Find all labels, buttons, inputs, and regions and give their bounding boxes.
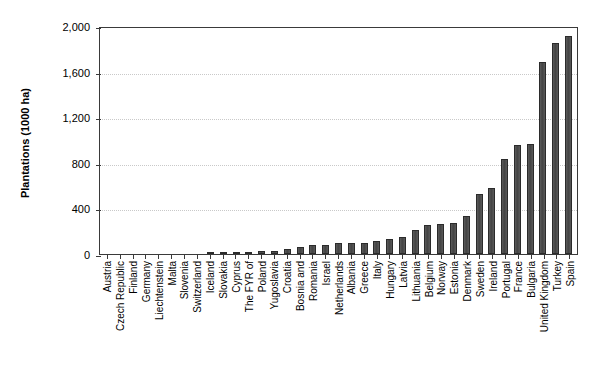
bar[interactable] [271,251,278,254]
bar-slot [498,28,511,254]
bar-slot [422,28,435,254]
bar[interactable] [437,224,444,254]
bar[interactable] [565,36,572,254]
x-axis-tick-slot [307,255,320,260]
bar[interactable] [348,243,355,254]
x-axis-tick-slot [178,255,191,260]
bar-slot [396,28,409,254]
bar[interactable] [501,159,508,254]
x-axis-tick-mark [351,255,352,259]
bar[interactable] [539,62,546,254]
x-axis-tick-mark [454,255,455,259]
bar-slot [204,28,217,254]
x-axis-tick-label: Albania [346,261,357,294]
x-axis-tick-slot [294,255,307,260]
bar[interactable] [399,237,406,254]
x-axis-tick-label: Poland [256,261,267,292]
bar-slot [281,28,294,254]
bar[interactable] [450,223,457,254]
x-axis-tick-mark [274,255,275,259]
bar-slot [383,28,396,254]
bar[interactable] [424,225,431,254]
x-axis-label-slot: Sweden [473,261,486,373]
x-axis-tick-slot [165,255,178,260]
x-axis-label-slot: Cyprus [229,261,242,373]
x-axis-label-slot: Austria [101,261,114,373]
y-axis-tick-label: 800 [36,158,90,169]
bar[interactable] [373,241,380,254]
x-axis-tick-label: Denmark [462,261,473,302]
x-axis-tick-marks [99,255,578,260]
bar[interactable] [207,252,214,254]
x-axis-tick-slot [191,255,204,260]
x-axis-tick-slot [448,255,461,260]
bar-slot [562,28,575,254]
bar-slot [473,28,486,254]
x-axis-tick-label: Lithuania [410,261,421,302]
x-axis-tick-mark [325,255,326,259]
bar[interactable] [309,245,316,254]
x-axis-tick-label: Bosnia and [295,261,306,311]
x-axis-label-slot: France [512,261,525,373]
x-axis-label-slot: Iceland [204,261,217,373]
bar-slot [460,28,473,254]
x-axis-tick-mark [197,255,198,259]
x-axis-tick-mark [492,255,493,259]
y-axis-tick-label: 1,200 [36,113,90,124]
x-axis-label-slot: Lithuania [409,261,422,373]
bar[interactable] [412,230,419,255]
x-axis-tick-slot [204,255,217,260]
x-axis-label-slot: Belgium [422,261,435,373]
bar[interactable] [386,239,393,254]
bar[interactable] [527,144,534,254]
bar[interactable] [233,252,240,254]
x-axis-tick-label: France [513,261,524,292]
x-axis-tick-label: Latvia [397,261,408,288]
x-axis-tick-slot [525,255,538,260]
bar-slot [345,28,358,254]
bar-slot [255,28,268,254]
x-axis-tick-mark [184,255,185,259]
x-axis-label-slot: Israel [319,261,332,373]
bar[interactable] [476,194,483,254]
x-axis-tick-label: Liechtenstein [153,261,164,320]
x-axis-tick-mark [415,255,416,259]
x-axis-tick-slot [319,255,332,260]
bar[interactable] [488,188,495,254]
x-axis-tick-label: Norway [436,261,447,295]
bar[interactable] [361,243,368,254]
bar[interactable] [258,251,265,254]
x-axis-label-slot: Italy [371,261,384,373]
bar[interactable] [220,252,227,254]
bar[interactable] [284,249,291,254]
bar-slot [179,28,192,254]
x-axis-label-slot: Albania [345,261,358,373]
bar-slot [307,28,320,254]
x-axis-tick-mark [223,255,224,259]
x-axis-tick-slot [332,255,345,260]
x-axis-tick-label: Austria [102,261,113,292]
x-axis-tick-label: Italy [372,261,383,279]
x-axis-tick-label: Belgium [423,261,434,297]
x-axis-tick-slot [396,255,409,260]
x-axis-tick-mark [248,255,249,259]
bar[interactable] [335,243,342,254]
bar[interactable] [552,43,559,254]
x-axis-tick-slot [538,255,551,260]
bar[interactable] [297,247,304,254]
x-axis-label-slot: Hungary [384,261,397,373]
x-axis-tick-label: Ireland [487,261,498,292]
bar-slot [243,28,256,254]
y-axis-tick-label: 400 [36,204,90,215]
y-axis-tick-labels: 04008001,2001,6002,000 [36,0,90,375]
bar[interactable] [322,245,329,254]
bar-slot [524,28,537,254]
bar-slot [319,28,332,254]
bar[interactable] [463,216,470,254]
bar[interactable] [514,145,521,254]
x-axis-tick-label: Germany [140,261,151,302]
bar[interactable] [245,252,252,255]
x-axis-label-slot: United Kingdom [538,261,551,373]
bar-slot [128,28,141,254]
x-axis-tick-slot [114,255,127,260]
